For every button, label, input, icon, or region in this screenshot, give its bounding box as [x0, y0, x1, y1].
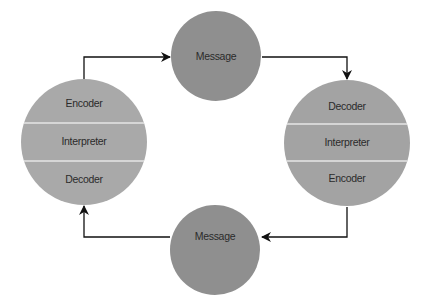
message-bottom-circle	[170, 205, 260, 295]
connector-top-message-to-right	[262, 57, 347, 79]
participant-left: Encoder Interpreter Decoder	[20, 79, 150, 205]
left-section-decoder: Decoder	[65, 173, 103, 185]
right-section-interpreter: Interpreter	[324, 136, 370, 148]
participant-right: Decoder Interpreter Encoder	[282, 80, 412, 206]
right-section-decoder: Decoder	[328, 100, 366, 112]
message-bottom-label: Message	[195, 230, 236, 242]
connector-left-to-top-message	[84, 57, 170, 79]
message-top: Message	[171, 11, 261, 101]
message-top-label: Message	[196, 50, 237, 62]
right-section-encoder: Encoder	[328, 172, 366, 184]
left-section-encoder: Encoder	[65, 97, 103, 109]
left-section-interpreter: Interpreter	[61, 135, 107, 147]
message-bottom: Message	[170, 205, 260, 295]
communication-diagram: Encoder Interpreter Decoder Message Deco…	[0, 0, 422, 297]
connector-bottom-message-to-left	[84, 206, 170, 237]
connector-right-to-bottom-message	[262, 207, 347, 237]
diagram-svg: Encoder Interpreter Decoder Message Deco…	[0, 0, 422, 297]
